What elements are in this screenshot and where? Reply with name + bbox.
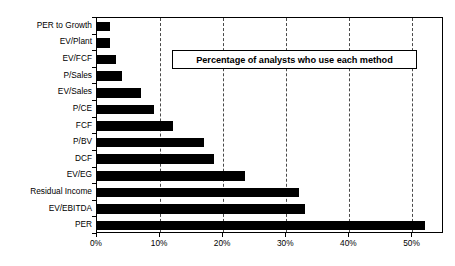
y-axis-labels: PER to GrowthEV/PlantEV/FCFP/SalesEV/Sal… — [0, 17, 92, 233]
y-axis-label: EV/Plant — [0, 37, 92, 45]
bar-chart: PER to GrowthEV/PlantEV/FCFP/SalesEV/Sal… — [0, 0, 455, 266]
y-axis-label: EV/Sales — [0, 87, 92, 95]
chart-title: Percentage of analysts who use each meth… — [196, 55, 393, 65]
bar — [97, 221, 425, 231]
bar — [97, 204, 305, 214]
bar — [97, 138, 204, 148]
bar-row — [97, 35, 110, 52]
y-axis-label: EV/FCF — [0, 54, 92, 62]
bar-row — [97, 134, 204, 151]
x-axis-label: 20% — [214, 239, 231, 247]
bar-row — [97, 118, 173, 135]
bar-row — [97, 51, 116, 68]
bar-row — [97, 18, 110, 35]
bar-row — [97, 151, 214, 168]
bar — [97, 22, 110, 32]
bar-row — [97, 184, 299, 201]
y-axis-label: DCF — [0, 154, 92, 162]
x-axis-tick — [159, 233, 160, 237]
bar-row — [97, 217, 425, 234]
x-axis-label: 40% — [340, 239, 357, 247]
x-axis-label: 10% — [151, 239, 168, 247]
bar — [97, 88, 141, 98]
bar — [97, 154, 214, 164]
bar — [97, 121, 173, 131]
y-axis-label: P/Sales — [0, 71, 92, 79]
bar — [97, 38, 110, 48]
bar-row — [97, 201, 305, 218]
x-axis-tick — [411, 233, 412, 237]
y-axis-label: PER — [0, 220, 92, 228]
bar-row — [97, 68, 122, 85]
bar — [97, 188, 299, 198]
bar — [97, 71, 122, 81]
y-axis-label: EV/EG — [0, 170, 92, 178]
y-axis-label: P/CE — [0, 104, 92, 112]
x-axis-tick — [285, 233, 286, 237]
x-axis-label: 30% — [277, 239, 294, 247]
bar — [97, 105, 154, 115]
bar — [97, 55, 116, 65]
bar — [97, 171, 245, 181]
bar-row — [97, 84, 141, 101]
bar-row — [97, 101, 154, 118]
x-axis-tick — [96, 233, 97, 237]
y-axis-label: Residual Income — [0, 187, 92, 195]
y-axis-label: EV/EBITDA — [0, 204, 92, 212]
y-axis-label: PER to Growth — [0, 21, 92, 29]
bar-row — [97, 168, 245, 185]
x-axis-label: 0% — [90, 239, 102, 247]
x-axis-tick — [348, 233, 349, 237]
chart-title-box: Percentage of analysts who use each meth… — [172, 50, 417, 69]
x-axis-label: 50% — [403, 239, 420, 247]
y-axis-label: FCF — [0, 121, 92, 129]
y-axis-label: P/BV — [0, 137, 92, 145]
x-axis-tick — [222, 233, 223, 237]
